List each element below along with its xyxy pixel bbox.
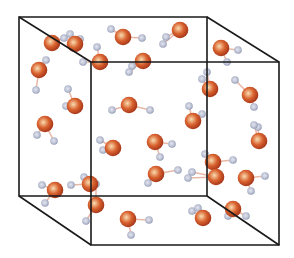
hydrogen-atom [250,121,258,129]
oxygen-atom [120,211,137,228]
oxygen-atom [185,113,202,130]
oxygen-atom [82,176,99,193]
hydrogen-atom [32,86,40,94]
oxygen-atom [238,170,255,187]
hydrogen-atom [146,106,154,114]
cube-depth-edge [207,196,279,245]
oxygen-atom [147,134,164,151]
oxygen-atom [121,97,138,114]
hydrogen-atom [82,217,90,225]
water-box-diagram [0,0,294,258]
oxygen-atom [37,116,54,133]
hydrogen-atom [93,43,101,51]
oxygen-atom [115,29,132,46]
hydrogen-atom [234,46,242,54]
hydrogen-atom [33,131,41,139]
hydrogen-atom [184,174,192,182]
hydrogen-atom [138,34,146,42]
hydrogen-atom [250,103,258,111]
oxygen-atom [208,169,225,186]
hydrogen-atom [162,33,170,41]
oxygen-atom [67,36,84,53]
oxygen-atom [148,166,165,183]
hydrogen-atom [145,216,153,224]
cube-depth-edge [19,196,91,245]
hydrogen-atom [67,181,75,189]
hydrogen-atom [41,199,49,207]
hydrogen-atom [96,136,104,144]
oxygen-atom [202,81,219,98]
hydrogen-atom [229,156,237,164]
hydrogen-atom [261,172,269,180]
oxygen-atom [195,210,212,227]
oxygen-atom [213,40,230,57]
oxygen-atom [172,22,189,39]
hydrogen-atom [127,231,135,239]
oxygen-atom [135,53,152,70]
hydrogen-atom [125,68,133,76]
hydrogen-atom [231,76,239,84]
hydrogen-atom [185,102,193,110]
oxygen-atom [242,87,259,104]
oxygen-atom [105,140,122,157]
oxygen-atom [251,133,268,150]
hydrogen-atom [168,140,176,148]
hydrogen-atom [108,106,116,114]
hydrogen-atom [198,75,206,83]
oxygen-atom [67,98,84,115]
hydrogen-atom [50,137,58,145]
hydrogen-atom [156,153,164,161]
hydrogen-atom [42,56,50,64]
hydrogen-atom [174,166,182,174]
hydrogen-atom [159,40,167,48]
hydrogen-atom [107,25,115,33]
hydrogen-atom [247,187,255,195]
hydrogen-atom [242,212,250,220]
hydrogen-atom [64,85,72,93]
oxygen-atom [31,62,48,79]
oxygen-atom [88,197,105,214]
hydrogen-atom [38,181,46,189]
